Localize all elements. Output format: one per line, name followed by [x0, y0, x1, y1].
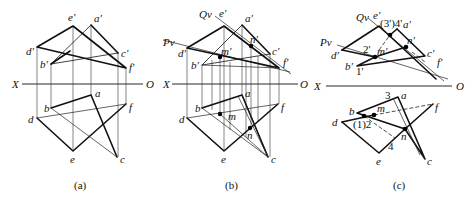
label-b-prime-c: b' — [345, 60, 354, 72]
label-m: m — [228, 110, 236, 122]
label-n-prime-c: n' — [407, 34, 416, 46]
label-d-prime-c: d' — [331, 49, 340, 61]
label-e-c: e — [376, 155, 381, 167]
label-1-2: (1)2 — [353, 118, 371, 131]
label-n-prime: n' — [250, 33, 259, 45]
axis-x-label-b: X — [162, 78, 171, 90]
axis-o-label-a: O — [146, 78, 154, 90]
label-c-c: c — [427, 155, 432, 167]
label-n-c: n — [401, 130, 407, 142]
label-d-c: d — [332, 116, 338, 128]
label-1-prime: 1' — [356, 65, 364, 77]
label-n: n — [247, 129, 253, 141]
label-pv: Pv — [162, 36, 175, 48]
point-m — [218, 112, 222, 116]
label-f-prime-b: f' — [283, 56, 289, 68]
label-e-prime-a: e' — [68, 11, 76, 23]
label-f-a: f — [129, 101, 134, 113]
label-f-c: f — [435, 101, 440, 113]
label-2-prime: 2' — [363, 43, 371, 55]
point-3-4-prime — [388, 33, 393, 38]
label-m-prime-c: m' — [377, 45, 388, 57]
label-d-prime-a: d' — [26, 45, 35, 57]
label-m-c: m — [377, 102, 385, 114]
label-d-b: d — [179, 113, 185, 125]
label-3: 3 — [385, 89, 391, 101]
label-4: 4 — [388, 140, 394, 152]
label-e-prime-b: e' — [219, 7, 227, 19]
label-d-prime-b: d' — [178, 47, 187, 59]
label-b-c: b — [349, 105, 355, 117]
label-qv-c: Qv — [356, 11, 369, 23]
label-3-4-prime: (3')4' — [380, 17, 402, 30]
label-b-prime-a: b' — [40, 58, 49, 70]
caption-a: (a) — [74, 179, 87, 192]
panel-b: Qv e' a' n' Pv d' m' c' f' b' X O a b f … — [162, 7, 308, 192]
label-a-prime-c: a' — [403, 18, 412, 30]
label-c-prime-a: c' — [121, 47, 129, 59]
label-a-b: a — [245, 87, 251, 99]
label-d-a: d — [28, 113, 34, 125]
panel-c: Qv e' (3')4' a' n' Pv 2' m' d' c' f' b' … — [313, 9, 464, 192]
point-m-c — [372, 113, 377, 118]
label-c-a: c — [120, 153, 125, 165]
label-c-prime-c: c' — [427, 47, 435, 59]
label-qv: Qv — [199, 8, 212, 20]
axis-x-label-c: X — [313, 80, 322, 92]
triangle-abc-top — [51, 95, 117, 157]
projection-lines-a — [37, 25, 126, 157]
label-a-a: a — [95, 87, 101, 99]
label-a-prime-b: a' — [245, 12, 254, 24]
label-e-a: e — [70, 153, 75, 165]
label-e-b: e — [221, 153, 226, 165]
axis-o-label-b: O — [300, 78, 308, 90]
axis-x-label-a: X — [11, 78, 20, 90]
projection-diagram: e' a' d' c' b' f' X O a b f d e c (a) — [0, 0, 471, 200]
label-f-prime-a: f' — [129, 61, 135, 73]
caption-b: (b) — [225, 179, 238, 192]
panel-a: e' a' d' c' b' f' X O a b f d e c (a) — [11, 11, 154, 192]
label-b-a: b — [44, 102, 50, 114]
label-c-prime-b: c' — [272, 45, 280, 57]
axis-o-label-c: O — [456, 80, 464, 92]
label-f-prime-c: f' — [437, 56, 443, 68]
label-c-b: c — [271, 153, 276, 165]
caption-c: (c) — [393, 179, 406, 192]
label-b-prime-b: b' — [191, 59, 200, 71]
label-m-prime: m' — [221, 45, 232, 57]
label-pv-c: Pv — [319, 36, 332, 48]
label-f-b: f — [281, 101, 286, 113]
label-a-prime-a: a' — [94, 12, 103, 24]
label-b-b: b — [195, 102, 201, 114]
projection-lines-b — [187, 25, 279, 157]
label-a-c: a — [401, 89, 407, 101]
